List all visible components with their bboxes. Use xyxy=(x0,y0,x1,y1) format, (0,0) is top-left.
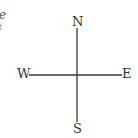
north-label: N xyxy=(72,15,83,28)
west-label: W xyxy=(17,67,30,80)
south-label: S xyxy=(73,122,82,135)
east-label: E xyxy=(122,67,132,80)
